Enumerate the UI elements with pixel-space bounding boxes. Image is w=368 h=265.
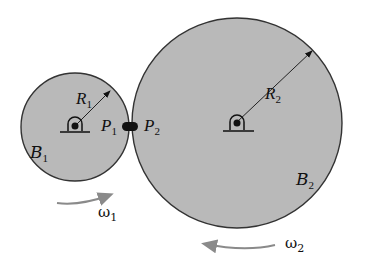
disc-diagram: R1 B1 P1 P2 R2 B2 ω1 ω2 bbox=[0, 0, 368, 265]
label-omega2: ω2 bbox=[285, 234, 304, 255]
disc-b2 bbox=[132, 18, 342, 228]
contact-point-marker bbox=[122, 122, 138, 131]
label-omega1: ω1 bbox=[98, 203, 117, 224]
omega2-arrow bbox=[205, 244, 275, 248]
